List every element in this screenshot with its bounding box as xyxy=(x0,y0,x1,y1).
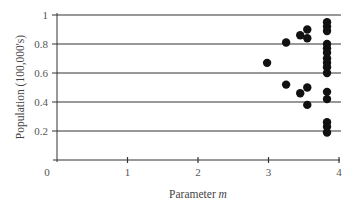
y-tick-label: 0.2 xyxy=(34,125,48,137)
y-tick-label: 0.8 xyxy=(34,38,48,50)
data-point xyxy=(323,128,331,136)
data-point xyxy=(303,83,311,91)
y-tick-label: 1 xyxy=(43,9,49,21)
data-point xyxy=(296,89,304,97)
data-point xyxy=(303,25,311,33)
data-points xyxy=(263,18,331,137)
data-point xyxy=(282,38,290,46)
data-point xyxy=(323,88,331,96)
x-axis-title: Parameter m xyxy=(169,188,227,200)
x-tick-label: 4 xyxy=(336,166,342,178)
data-point xyxy=(323,69,331,77)
x-tick-label: 1 xyxy=(125,166,131,178)
data-point xyxy=(323,95,331,103)
data-point xyxy=(263,59,271,67)
x-axis-title-variable: m xyxy=(219,188,227,200)
x-tick-label: 0 xyxy=(44,166,50,178)
data-point xyxy=(303,34,311,42)
y-axis-title: Population (100,000's) xyxy=(14,35,27,139)
data-point xyxy=(303,101,311,109)
scatter-chart: 01234 0.20.40.60.81 Parameter m Populati… xyxy=(0,0,356,211)
x-axis-title-text: Parameter xyxy=(169,188,219,200)
x-tick-label: 3 xyxy=(266,166,272,178)
x-tick-label: 2 xyxy=(195,166,201,178)
y-tick-label: 0.6 xyxy=(34,67,48,79)
y-tick-label: 0.4 xyxy=(34,96,48,108)
y-axis-ticks: 0.20.40.60.81 xyxy=(34,9,48,137)
data-point xyxy=(282,80,290,88)
data-point xyxy=(323,27,331,35)
